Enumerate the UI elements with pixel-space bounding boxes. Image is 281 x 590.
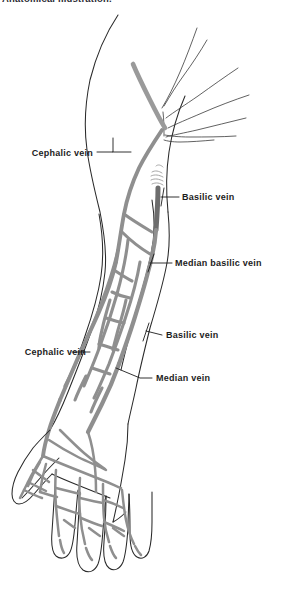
leader-basilic-vein-lower (143, 323, 162, 341)
label-basilic-vein-upper: Basilic vein (182, 192, 235, 202)
leader-cephalic-vein-upper (97, 138, 131, 152)
label-median-basilic-vein: Median basilic vein (175, 258, 262, 268)
axillary-vein-trunk (133, 64, 165, 128)
shoulder-radiating-lines (162, 28, 249, 142)
forearm-vein-network (65, 214, 152, 412)
label-basilic-vein-lower: Basilic vein (166, 330, 219, 340)
elbow-feather-marks (151, 165, 163, 185)
label-cephalic-vein-upper: Cephalic vein (13, 148, 93, 158)
leader-basilic-vein-upper (161, 188, 179, 206)
illustration-page: Anatomical illustration. (0, 0, 281, 590)
label-cephalic-vein-lower: Cephalic vein (6, 347, 86, 357)
arm-vein-diagram (0, 0, 281, 590)
dorsal-venous-network-hand (20, 430, 141, 560)
label-median-vein: Median vein (156, 373, 210, 383)
